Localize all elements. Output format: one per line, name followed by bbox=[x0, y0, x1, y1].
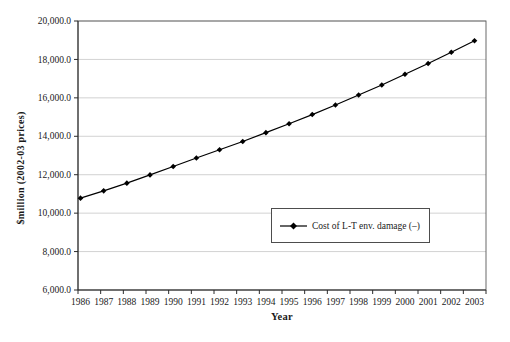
y-tick-label: 18,000.0 bbox=[38, 55, 72, 65]
x-tick-label: 1987 bbox=[94, 297, 113, 307]
y-tick-label: 6,000.0 bbox=[43, 285, 72, 295]
data-point-marker bbox=[472, 38, 478, 44]
x-tick-label: 1998 bbox=[349, 297, 368, 307]
legend-line-marker-icon bbox=[280, 221, 307, 231]
data-point-marker bbox=[170, 164, 176, 170]
legend-box: Cost of L-T env. damage (–) bbox=[271, 208, 430, 243]
y-tick-label: 20,000.0 bbox=[38, 16, 72, 26]
data-point-marker bbox=[309, 112, 315, 118]
y-tick-label: 10,000.0 bbox=[38, 208, 72, 218]
legend-series-label: Cost of L-T env. damage (–) bbox=[312, 221, 420, 231]
data-point-marker bbox=[194, 155, 200, 161]
x-tick-label: 1991 bbox=[187, 297, 206, 307]
x-tick-label: 1990 bbox=[164, 297, 183, 307]
data-point-marker bbox=[449, 50, 455, 56]
x-tick-label: 1986 bbox=[71, 297, 90, 307]
data-point-marker bbox=[425, 61, 431, 67]
data-point-marker bbox=[217, 147, 223, 153]
x-tick-label: 1997 bbox=[326, 297, 345, 307]
data-point-marker bbox=[240, 139, 246, 145]
y-tick-label: 14,000.0 bbox=[38, 131, 72, 141]
y-tick-label: 12,000.0 bbox=[38, 170, 72, 180]
x-tick-label: 1996 bbox=[303, 297, 322, 307]
x-tick-label: 2000 bbox=[395, 297, 414, 307]
x-axis-title: Year bbox=[78, 311, 486, 322]
x-tick-label: 2001 bbox=[419, 297, 438, 307]
data-point-marker bbox=[379, 82, 385, 88]
x-tick-label: 2002 bbox=[442, 297, 461, 307]
y-axis-title: $million (2002-03 prices) bbox=[15, 38, 29, 298]
data-point-marker bbox=[402, 71, 408, 77]
x-tick-label: 1994 bbox=[256, 297, 275, 307]
data-point-marker bbox=[263, 130, 269, 136]
data-point-marker bbox=[286, 121, 292, 127]
x-tick-label: 1988 bbox=[117, 297, 136, 307]
data-point-marker bbox=[78, 195, 84, 201]
x-tick-label: 2003 bbox=[465, 297, 484, 307]
plot-area: 6,000.08,000.010,000.012,000.014,000.016… bbox=[0, 0, 510, 342]
x-tick-label: 1995 bbox=[280, 297, 299, 307]
x-tick-label: 1993 bbox=[233, 297, 252, 307]
data-point-marker bbox=[101, 188, 107, 194]
data-point-marker bbox=[333, 102, 339, 108]
x-tick-label: 1999 bbox=[372, 297, 391, 307]
y-tick-label: 16,000.0 bbox=[38, 93, 72, 103]
x-tick-label: 1992 bbox=[210, 297, 229, 307]
chart-figure: 6,000.08,000.010,000.012,000.014,000.016… bbox=[0, 0, 510, 342]
data-point-marker bbox=[147, 172, 153, 178]
x-tick-label: 1989 bbox=[141, 297, 160, 307]
data-point-marker bbox=[124, 180, 130, 186]
y-tick-label: 8,000.0 bbox=[43, 247, 72, 257]
data-point-marker bbox=[356, 92, 362, 98]
plot-border bbox=[78, 21, 486, 290]
